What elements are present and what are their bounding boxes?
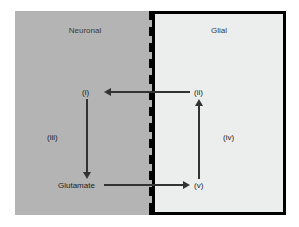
membrane-notch — [149, 68, 152, 75]
arrow-shaft — [110, 91, 190, 93]
diagram-canvas: Neuronal Glial (i) (ii) (iii) (iv) (v) G… — [0, 0, 299, 227]
glutamate-label: Glutamate — [58, 181, 95, 190]
arrow-neuron-down — [82, 99, 92, 179]
arrow-shaft — [198, 105, 200, 179]
arrow-shaft — [104, 184, 184, 186]
membrane-notch — [149, 132, 152, 139]
glial-compartment-title: Glial — [152, 26, 286, 35]
membrane-notch — [149, 196, 152, 203]
arrowhead-up-icon — [195, 99, 203, 106]
arrow-glial-to-neuron — [104, 87, 190, 97]
neuronal-compartment-title: Neuronal — [15, 26, 155, 35]
step-label-iv: (iv) — [223, 133, 234, 142]
membrane-notch — [149, 164, 152, 171]
arrowhead-down-icon — [83, 172, 91, 179]
step-label-iii: (iii) — [47, 133, 58, 142]
membrane-notch — [149, 52, 152, 59]
step-label-ii: (ii) — [194, 88, 203, 97]
membrane-notch — [149, 148, 152, 155]
membrane-notch — [149, 36, 152, 43]
arrowhead-left-icon — [104, 88, 111, 96]
step-label-v: (v) — [194, 181, 203, 190]
arrow-glial-up — [194, 99, 204, 179]
step-label-i: (i) — [82, 88, 89, 97]
arrow-neuron-to-glial — [104, 180, 190, 190]
arrow-shaft — [86, 99, 88, 173]
membrane-notch — [149, 100, 152, 107]
membrane-notch — [149, 116, 152, 123]
arrowhead-right-icon — [183, 181, 190, 189]
